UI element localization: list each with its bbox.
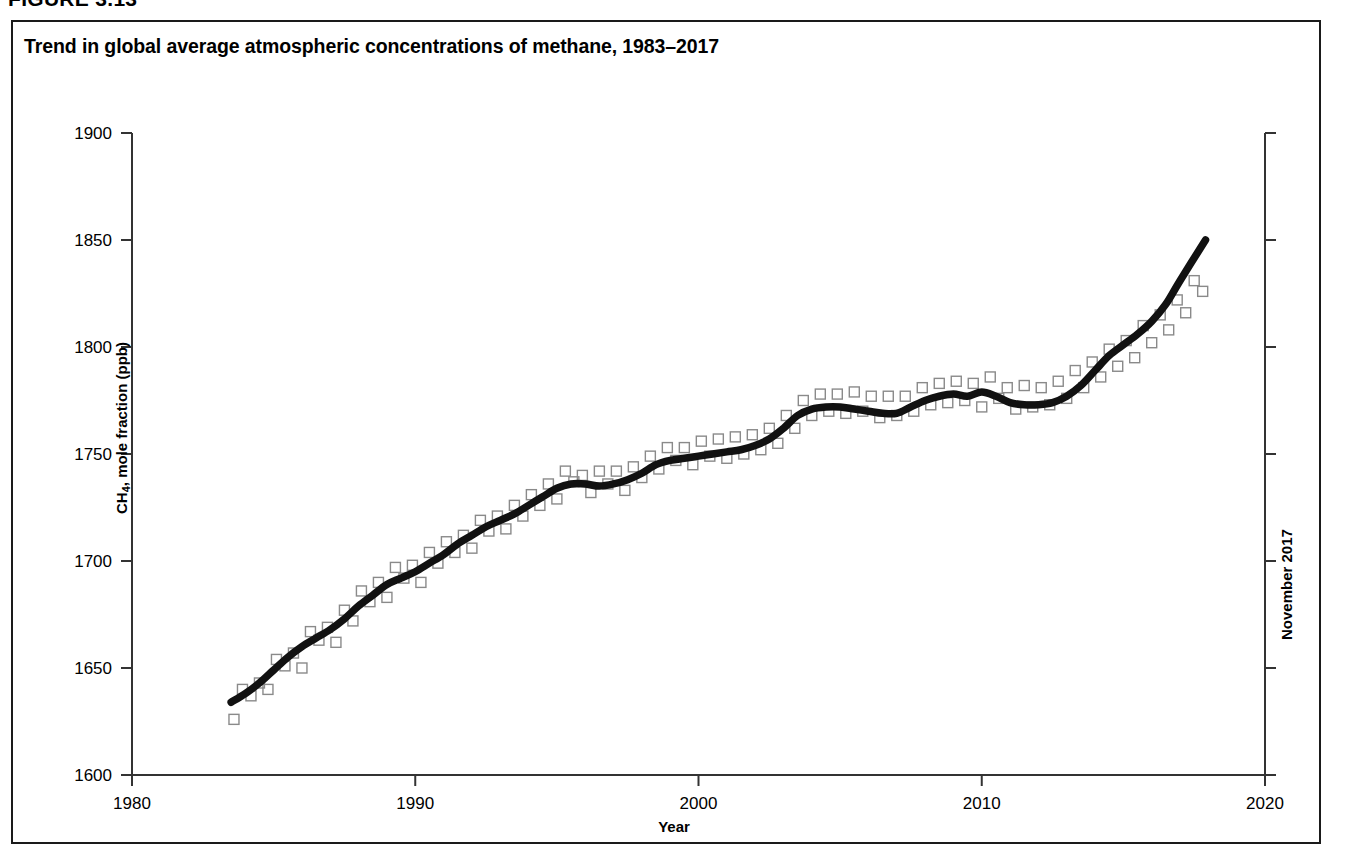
data-point-marker [1198,286,1208,296]
y-axis-label: CH4, mole fraction (ppb) [113,342,132,514]
data-point-marker [501,524,511,534]
y-tick-label: 1900 [74,124,112,143]
data-point-marker [1113,361,1123,371]
data-point-marker [985,372,995,382]
data-point-marker [560,466,570,476]
data-point-marker [1053,376,1063,386]
data-point-marker [229,714,239,724]
data-point-marker [917,383,927,393]
data-point-marker [1019,381,1029,391]
data-point-marker [611,466,621,476]
y-tick-label: 1800 [74,338,112,357]
y-tick-label: 1600 [74,766,112,785]
data-point-marker [764,423,774,433]
data-point-marker [331,637,341,647]
data-point-marker [467,543,477,553]
data-point-marker [815,389,825,399]
y-axis-label-text: CH [113,492,130,514]
data-point-marker [594,466,604,476]
data-point-marker [943,398,953,408]
methane-trend-chart: 1600165017001750180018501900198019902000… [0,0,1348,856]
data-point-marker [1036,383,1046,393]
data-point-marker [977,402,987,412]
trend-line [231,240,1205,702]
data-point-marker [679,443,689,453]
data-point-marker [390,562,400,572]
data-point-marker [1147,338,1157,348]
data-point-marker [900,391,910,401]
y-axis-label-subscript: 4 [120,486,132,492]
y-tick-label: 1750 [74,445,112,464]
x-tick-label: 2020 [1246,794,1284,813]
data-point-marker [1181,308,1191,318]
y-tick-label: 1850 [74,231,112,250]
data-markers-group [229,276,1208,725]
data-point-marker [382,592,392,602]
y-tick-label: 1650 [74,659,112,678]
figure-root: FIGURE 3.13 Trend in global average atmo… [0,0,1348,856]
data-point-marker [662,443,672,453]
x-tick-label: 1990 [396,794,434,813]
data-point-marker [645,451,655,461]
november-2017-annotation: November 2017 [1278,529,1295,640]
data-point-marker [747,430,757,440]
data-point-marker [798,396,808,406]
x-tick-label: 1980 [113,794,151,813]
plot-area: 1600165017001750180018501900198019902000… [0,0,1348,856]
data-point-marker [934,378,944,388]
data-point-marker [416,577,426,587]
y-axis-label-units: , mole fraction (ppb) [113,342,130,486]
data-point-marker [297,663,307,673]
data-point-marker [951,376,961,386]
data-point-marker [1164,325,1174,335]
x-tick-label: 2000 [680,794,718,813]
data-point-marker [730,432,740,442]
data-point-marker [696,436,706,446]
data-point-marker [620,485,630,495]
data-point-marker [832,389,842,399]
x-axis-label: Year [0,818,1348,835]
x-tick-label: 2010 [963,794,1001,813]
data-point-marker [713,434,723,444]
data-point-marker [866,391,876,401]
data-point-marker [1189,276,1199,286]
data-point-marker [356,586,366,596]
data-point-marker [883,391,893,401]
y-tick-label: 1700 [74,552,112,571]
data-point-marker [849,387,859,397]
data-point-marker [1002,383,1012,393]
data-point-marker [628,462,638,472]
data-point-marker [1130,353,1140,363]
data-point-marker [424,547,434,557]
data-point-marker [1070,366,1080,376]
data-point-marker [552,494,562,504]
data-point-marker [968,378,978,388]
